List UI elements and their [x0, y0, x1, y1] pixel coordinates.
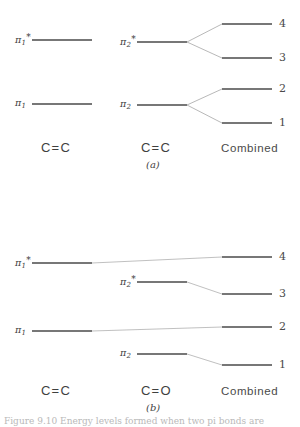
panel-b-column-label-middle: C=O	[141, 384, 172, 397]
panel-b-connector-pi1star-to-4	[92, 257, 222, 263]
panel-a-column-label-middle: C=C	[141, 141, 171, 154]
pi-glyph: π	[120, 276, 126, 287]
panel-a-column-label-left: C=C	[41, 141, 71, 154]
panel-a-connector-pi2-to-2	[187, 89, 222, 105]
panel-b-middle-label-pi-2-star: π2*	[120, 275, 136, 289]
panel-a-left-label-pi-1-star: π1*	[15, 33, 31, 47]
panel-a-middle-label-pi-2-star: π2*	[120, 35, 136, 49]
pi-subscript: 1	[21, 329, 26, 337]
panel-a-connector-pi2-to-1	[187, 105, 222, 123]
panel-a-number-level-4: 4	[279, 18, 286, 29]
panel-a-left-label-pi-1: π1	[15, 98, 26, 110]
panel-b-connector-pi2-to-1	[187, 354, 222, 365]
pi-subscript: 1	[21, 102, 26, 110]
panel-a-number-level-1: 1	[279, 117, 286, 128]
panel-b-column-label-left: C=C	[41, 384, 71, 397]
panel-b-connector-pi2star-to-3	[187, 282, 222, 294]
figure-caption: Figure 9.10 Energy levels formed when tw…	[4, 417, 300, 427]
panel-b-left-label-pi-1: π1	[15, 325, 26, 337]
panel-b-left-label-pi-1-star: π1*	[15, 256, 31, 270]
pi-glyph: π	[120, 98, 126, 109]
pi-glyph: π	[15, 97, 21, 108]
pi-glyph: π	[120, 36, 126, 47]
panel-b-connector-pi1-to-2	[92, 327, 222, 331]
panel-b-column-label-right: Combined	[221, 386, 278, 398]
pi-glyph: π	[15, 34, 21, 45]
pi-star: *	[131, 274, 136, 284]
pi-glyph: π	[15, 324, 21, 335]
pi-star: *	[131, 34, 136, 44]
pi-glyph: π	[120, 347, 126, 358]
panel-a: π1* π1 π2* π2 4 3 2 1 C=C C=C Combined (…	[0, 0, 300, 212]
pi-star: *	[26, 255, 31, 265]
panel-b-number-level-3: 3	[279, 288, 286, 299]
panel-a-level-diagram	[0, 0, 300, 212]
panel-a-column-label-right: Combined	[221, 143, 278, 155]
panel-a-number-level-2: 2	[279, 83, 286, 94]
panel-b-number-level-1: 1	[279, 359, 286, 370]
panel-b-number-level-4: 4	[279, 251, 286, 262]
panel-a-connector-pi2star-to-3	[187, 42, 222, 58]
pi-star: *	[26, 32, 31, 42]
pi-subscript: 2	[126, 103, 131, 111]
panel-b-middle-label-pi-2: π2	[120, 348, 131, 360]
panel-a-connector-pi2star-to-4	[187, 24, 222, 42]
panel-a-number-level-3: 3	[279, 52, 286, 63]
panel-b-caption: (b)	[146, 403, 160, 413]
panel-a-caption: (a)	[146, 160, 160, 170]
pi-glyph: π	[15, 257, 21, 268]
panel-b-number-level-2: 2	[279, 321, 286, 332]
panel-a-middle-label-pi-2: π2	[120, 99, 131, 111]
panel-b: π1* π1 π2* π2 4 3 2 1 C=C C=O Combined (…	[0, 212, 300, 424]
pi-subscript: 2	[126, 352, 131, 360]
